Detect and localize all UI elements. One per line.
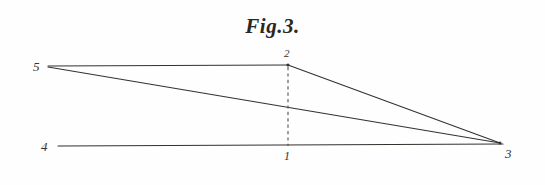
segment-5-3 <box>48 67 500 143</box>
point-label-1: 1 <box>284 150 290 162</box>
baseline-4-3 <box>58 144 503 146</box>
vertex-point-3 <box>499 142 502 145</box>
diagram-drawing <box>0 0 545 185</box>
segment-5-2 <box>48 65 288 66</box>
point-label-3: 3 <box>505 147 512 160</box>
point-label-2: 2 <box>284 48 290 59</box>
segment-2-3 <box>288 65 500 143</box>
vertex-point-2 <box>286 63 289 66</box>
point-label-5: 5 <box>33 60 40 73</box>
figure-canvas: Fig.3. 5 2 4 1 3 <box>0 0 545 185</box>
point-label-4: 4 <box>41 140 48 153</box>
